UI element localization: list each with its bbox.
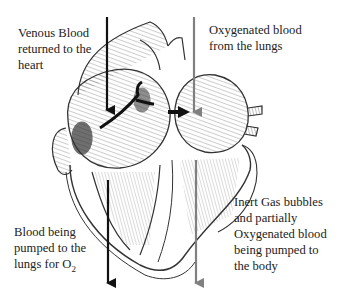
oxygen-subscript: 2 [71, 264, 76, 274]
to-body-label: Inert Gas bubbles and partially Oxygenat… [234, 194, 327, 274]
oxygenated-blood-label: Oxygenated blood from the lungs [209, 22, 302, 54]
to-lungs-label: Blood being pumped to the lungs for O2 [14, 224, 86, 277]
venous-blood-label: Venous Blood returned to the heart [18, 25, 91, 73]
